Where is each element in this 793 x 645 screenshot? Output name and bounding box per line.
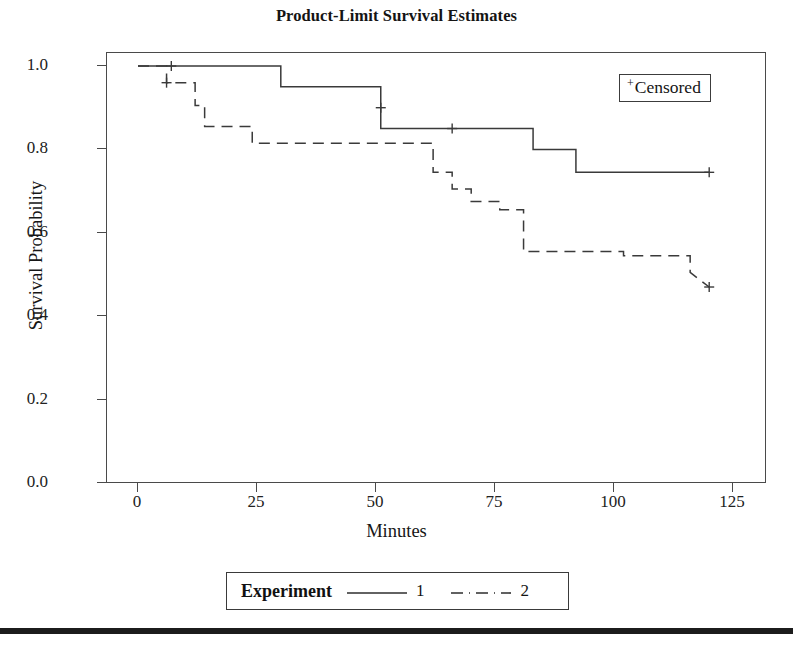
x-tick-label-75: 75	[464, 492, 524, 512]
x-tick-mark-125	[732, 483, 733, 492]
x-tick-mark-100	[613, 483, 614, 492]
censored-mark-1-0	[166, 61, 176, 71]
x-tick-mark-25	[256, 483, 257, 492]
legend-entry-1: 1	[346, 581, 425, 601]
x-tick-label-0: 0	[107, 492, 167, 512]
y-tick-mark-0-8	[97, 148, 106, 149]
y-tick-mark-0-0	[97, 482, 106, 483]
legend-title: Experiment	[241, 581, 332, 602]
plot-area	[106, 52, 766, 483]
experiment-legend-box: Experiment 1 2	[226, 572, 569, 610]
x-tick-mark-75	[494, 483, 495, 492]
legend-line-solid-icon	[346, 585, 408, 597]
censored-legend-box: +Censored	[619, 74, 711, 102]
legend-label-2: 2	[520, 581, 529, 601]
censored-mark-2-0	[162, 78, 172, 88]
censored-mark-1-1	[376, 103, 386, 113]
survival-plot-figure: Product-Limit Survival Estimates 1.0 0.8…	[0, 0, 793, 645]
footer-rule	[0, 628, 793, 634]
censored-mark-1-2	[447, 124, 457, 134]
censored-mark-1-3	[704, 167, 714, 177]
x-tick-mark-0	[137, 483, 138, 492]
y-tick-label-0-0: 0.0	[0, 472, 48, 492]
page-title: Product-Limit Survival Estimates	[0, 6, 793, 26]
censored-legend-label: Censored	[635, 77, 701, 97]
x-tick-mark-50	[375, 483, 376, 492]
censored-plus-icon: +	[627, 76, 634, 90]
y-tick-mark-0-4	[97, 315, 106, 316]
y-axis-title: Survival Probability	[26, 66, 47, 446]
y-tick-mark-1-0	[97, 65, 106, 66]
x-tick-label-100: 100	[583, 492, 643, 512]
x-tick-label-125: 125	[702, 492, 762, 512]
legend-entry-2: 2	[450, 581, 529, 601]
legend-line-dashed-icon	[450, 585, 512, 597]
survival-curves	[107, 53, 767, 484]
legend-label-1: 1	[416, 581, 425, 601]
x-tick-label-50: 50	[345, 492, 405, 512]
y-tick-mark-0-2	[97, 399, 106, 400]
x-axis-title: Minutes	[0, 521, 793, 542]
y-tick-mark-0-6	[97, 232, 106, 233]
x-tick-label-25: 25	[226, 492, 286, 512]
